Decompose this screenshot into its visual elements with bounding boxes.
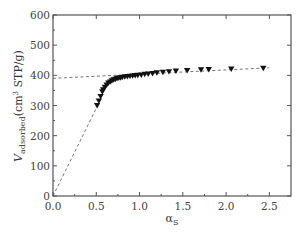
x-tick-label: 2.5	[261, 200, 278, 212]
data-point-marker	[260, 66, 266, 71]
y-tick-label: 100	[30, 160, 50, 172]
data-point-marker	[173, 69, 179, 74]
axes: 0.00.51.01.52.02.50100200300400500600	[30, 9, 291, 212]
x-tick-label: 1.5	[174, 200, 191, 212]
data-point-marker	[94, 103, 100, 108]
y-tick-label: 500	[30, 39, 50, 51]
plot-area	[53, 66, 269, 196]
data-point-marker	[198, 67, 204, 72]
data-point-marker	[206, 67, 212, 72]
plot-frame	[53, 15, 291, 196]
x-tick-label: 0.5	[88, 200, 105, 212]
y-tick-label: 0	[43, 190, 50, 202]
data-point-marker	[166, 69, 172, 74]
data-point-marker	[184, 68, 190, 73]
x-tick-label: 1.0	[131, 200, 148, 212]
y-axis-label: Vadsorbed(cm3 STP/g)	[12, 50, 27, 162]
x-axis-label: αS	[166, 212, 179, 227]
fit-line	[53, 99, 101, 196]
x-tick-label: 2.0	[218, 200, 235, 212]
y-tick-label: 200	[30, 130, 50, 142]
data-point-marker	[228, 66, 234, 71]
y-tick-label: 600	[30, 9, 50, 21]
adsorption-chart: 0.00.51.01.52.02.50100200300400500600 αS…	[0, 0, 302, 242]
y-tick-label: 400	[30, 69, 50, 81]
fit-line	[53, 68, 269, 79]
y-tick-label: 300	[30, 100, 50, 112]
